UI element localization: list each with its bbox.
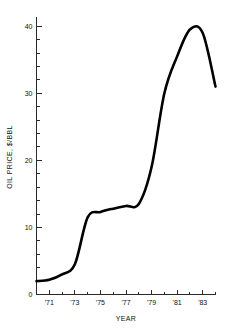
y-axis-tick-label: 10 xyxy=(25,224,33,231)
y-axis-tick-label: 0 xyxy=(29,291,33,298)
chart-figure: 010203040 '71'73'75'77'79'81'83 YEAR OIL… xyxy=(0,0,234,331)
oil-price-series-line xyxy=(37,26,216,281)
x-axis-tick-label: '75 xyxy=(96,299,105,306)
x-axis-tick-label: '71 xyxy=(45,299,54,306)
y-axis-title: OIL PRICE, $/BBL xyxy=(6,125,13,189)
y-axis-tick-label: 40 xyxy=(25,23,33,30)
y-axis-tick-label: 30 xyxy=(25,90,33,97)
x-axis-tick-label: '79 xyxy=(147,299,156,306)
x-axis-tick-labels: '71'73'75'77'79'81'83 xyxy=(45,299,208,306)
x-axis-tick-label: '83 xyxy=(198,299,207,306)
oil-price-line-chart: 010203040 '71'73'75'77'79'81'83 YEAR OIL… xyxy=(0,0,234,331)
y-axis-tick-labels: 010203040 xyxy=(25,23,33,298)
x-axis-major-ticks xyxy=(49,290,202,295)
axis-lines xyxy=(37,17,216,295)
x-axis-title: YEAR xyxy=(116,315,137,322)
x-axis-tick-label: '81 xyxy=(173,299,182,306)
x-axis-tick-label: '77 xyxy=(121,299,130,306)
x-axis-tick-label: '73 xyxy=(70,299,79,306)
y-axis-tick-label: 20 xyxy=(25,157,33,164)
